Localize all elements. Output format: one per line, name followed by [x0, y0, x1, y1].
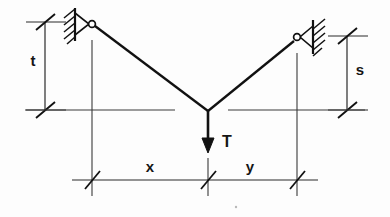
pin-support-right [294, 19, 325, 56]
dimension-x-label: x [146, 158, 155, 175]
dimension-t: t [26, 14, 66, 118]
dimension-s: s [328, 28, 368, 118]
statics-diagram: t s [0, 0, 390, 217]
load-label-T: T [222, 133, 232, 150]
cable-right [208, 41, 294, 111]
support-hatch-left-5 [67, 37, 75, 44]
dimension-s-label: s [356, 61, 364, 78]
scan-artifact-speck [235, 206, 237, 208]
support-triangle-left [75, 13, 89, 35]
dimension-y-label: y [246, 158, 255, 175]
dimension-t-label: t [31, 52, 36, 69]
pin-support-left [64, 8, 95, 44]
load-arrow-T: T [202, 110, 232, 153]
support-triangle-right [300, 26, 313, 48]
dimension-xy: x y [72, 158, 318, 189]
pin-joint-right [294, 34, 301, 41]
pin-joint-left [89, 21, 96, 28]
cables [95, 26, 294, 111]
figure-canvas: t s [0, 0, 390, 217]
load-arrow-head [202, 138, 214, 153]
cable-left [95, 26, 208, 111]
